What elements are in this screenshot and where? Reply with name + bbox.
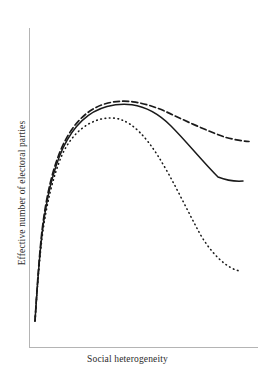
chart-figure: Effective number of electoral parties So… [0,0,261,381]
chart-plot-area [0,0,261,381]
curve-dotted [35,118,240,321]
x-axis-label: Social heterogeneity [0,354,255,364]
y-axis-label: Effective number of electoral parties [17,93,27,293]
curve-solid [35,104,243,321]
curve-dashed [35,101,249,321]
